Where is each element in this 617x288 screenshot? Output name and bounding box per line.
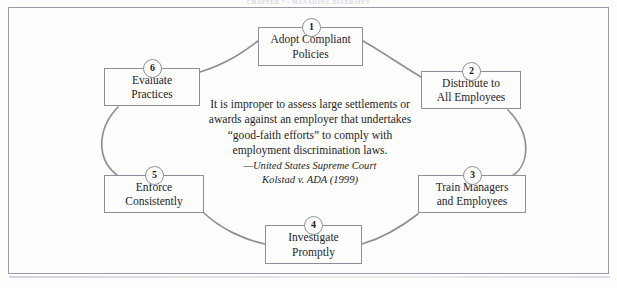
connector-5-to-6 bbox=[102, 107, 118, 175]
quotation-attribution-case: Kolstad v. ADA (1999) bbox=[208, 173, 412, 186]
center-quotation: It is improper to assess large settlemen… bbox=[208, 97, 412, 186]
step-number-5: 5 bbox=[145, 166, 164, 185]
connector-6-to-1 bbox=[200, 41, 258, 72]
step-number-3: 3 bbox=[463, 166, 482, 185]
step-number-2: 2 bbox=[462, 62, 481, 81]
step-number-4: 4 bbox=[304, 216, 323, 235]
quotation-text: It is improper to assess large settlemen… bbox=[208, 97, 412, 158]
step-number-6: 6 bbox=[143, 59, 162, 78]
quotation-attribution-court: —United States Supreme Court bbox=[208, 159, 412, 172]
step-number-1: 1 bbox=[302, 18, 321, 37]
scanned-figure-page: CHAPTER 7 • MANAGING DIVERSITY Adopt Com… bbox=[0, 0, 617, 288]
connector-1-to-2 bbox=[363, 41, 421, 77]
connector-3-to-4 bbox=[362, 214, 418, 244]
connector-2-to-3 bbox=[508, 110, 526, 176]
connector-4-to-5 bbox=[204, 213, 265, 244]
